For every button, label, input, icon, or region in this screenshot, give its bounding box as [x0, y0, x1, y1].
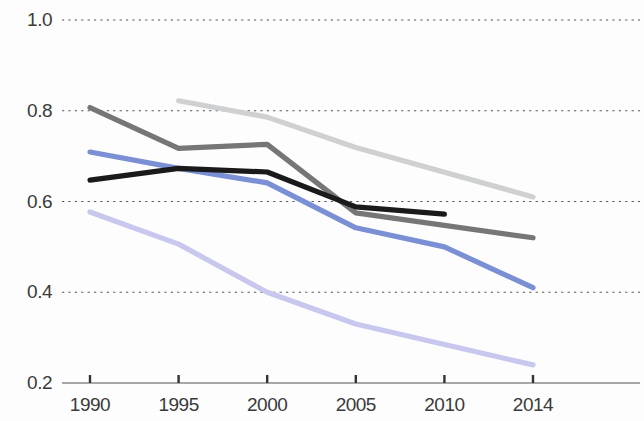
x-axis-label: 2010 — [409, 395, 479, 414]
gridline-group — [62, 20, 640, 292]
x-axis-label: 1990 — [55, 395, 125, 414]
y-axis-label: 0.2 — [4, 373, 52, 392]
series-group — [90, 101, 533, 365]
y-axis-label: 0.4 — [4, 282, 52, 301]
x-axis-label: 2014 — [498, 395, 568, 414]
x-axis-tick-group — [90, 375, 533, 383]
x-axis-label: 1995 — [144, 395, 214, 414]
x-axis-label: 2005 — [321, 395, 391, 414]
series-light-purple-line — [90, 212, 533, 365]
y-axis-label: 1.0 — [4, 10, 52, 29]
x-axis-label: 2000 — [232, 395, 302, 414]
y-axis-label: 0.8 — [4, 101, 52, 120]
chart-canvas — [0, 0, 644, 421]
y-axis-label: 0.6 — [4, 192, 52, 211]
series-silver-line — [179, 101, 533, 197]
series-black-line — [90, 168, 444, 214]
line-chart: 1.00.80.60.40.2 199019952000200520102014 — [0, 0, 644, 421]
